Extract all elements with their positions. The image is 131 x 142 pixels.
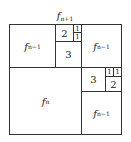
label-subscript: n−1 (28, 43, 41, 50)
label-subscript: n (45, 98, 49, 105)
title-subscript: n+1 (60, 15, 73, 22)
label-bottom-left: fn (9, 67, 82, 135)
label-mid-right-3: 3 (81, 67, 106, 92)
label-subscript: n−1 (97, 43, 110, 50)
label-subscript: n−1 (97, 110, 110, 117)
label-top-mid-3: 3 (55, 41, 82, 68)
label-top-mid-2: 2 (55, 24, 74, 42)
label-top-left: fn−1 (9, 24, 56, 68)
label-bottom-right: fn−1 (81, 91, 122, 135)
label-top-right: fn−1 (81, 24, 122, 68)
diagram-title: fn+1 (50, 10, 80, 22)
label-mid-right-2: 2 (105, 76, 122, 92)
